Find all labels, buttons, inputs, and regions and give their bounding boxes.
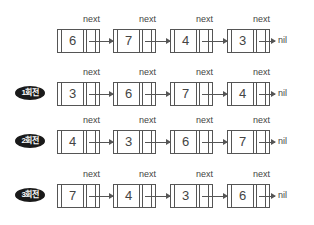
- list-row: 3회전next7next4next3next6nil: [0, 169, 314, 209]
- node-value: 3: [118, 131, 139, 153]
- list-row: 1회전next3next6next7next4nil: [0, 67, 314, 107]
- round-badge: 2회전: [15, 134, 45, 148]
- next-pointer-arrow: [89, 94, 113, 95]
- next-label: next: [253, 169, 270, 179]
- next-label: next: [253, 14, 270, 24]
- next-label: next: [83, 115, 100, 125]
- next-pointer-arrow: [202, 94, 227, 95]
- node-value: 4: [118, 185, 139, 207]
- next-pointer-arrow: [145, 196, 170, 197]
- node-value: 7: [62, 185, 83, 207]
- node-value: 4: [232, 83, 253, 105]
- node-value: 6: [175, 131, 196, 153]
- node-value: 7: [232, 131, 253, 153]
- next-pointer-arrow: [259, 196, 275, 197]
- node-value: 4: [62, 131, 83, 153]
- node-value: 7: [175, 83, 196, 105]
- next-label: next: [139, 169, 156, 179]
- next-label: next: [196, 14, 213, 24]
- next-label: next: [83, 169, 100, 179]
- nil-label: nil: [278, 88, 287, 98]
- next-pointer-arrow: [202, 196, 227, 197]
- next-label: next: [196, 115, 213, 125]
- node-value: 6: [118, 83, 139, 105]
- node-value: 4: [175, 30, 196, 52]
- next-label: next: [139, 67, 156, 77]
- next-label: next: [83, 67, 100, 77]
- next-pointer-arrow: [202, 41, 227, 42]
- next-label: next: [139, 115, 156, 125]
- next-label: next: [83, 14, 100, 24]
- nil-label: nil: [278, 35, 287, 45]
- next-pointer-arrow: [145, 94, 170, 95]
- next-pointer-arrow: [89, 41, 113, 42]
- node-value: 3: [232, 30, 253, 52]
- next-pointer-arrow: [89, 142, 113, 143]
- next-pointer-arrow: [202, 142, 227, 143]
- next-label: next: [253, 67, 270, 77]
- nil-label: nil: [278, 136, 287, 146]
- nil-label: nil: [278, 190, 287, 200]
- list-row: 2회전next4next3next6next7nil: [0, 115, 314, 155]
- next-pointer-arrow: [145, 41, 170, 42]
- next-label: next: [196, 169, 213, 179]
- next-pointer-arrow: [89, 196, 113, 197]
- node-value: 6: [62, 30, 83, 52]
- next-label: next: [139, 14, 156, 24]
- node-value: 3: [175, 185, 196, 207]
- next-label: next: [253, 115, 270, 125]
- next-pointer-arrow: [259, 142, 275, 143]
- next-pointer-arrow: [145, 142, 170, 143]
- next-pointer-arrow: [259, 41, 275, 42]
- list-row: next6next7next4next3nil: [0, 14, 314, 54]
- next-label: next: [196, 67, 213, 77]
- next-pointer-arrow: [259, 94, 275, 95]
- node-value: 6: [232, 185, 253, 207]
- node-value: 7: [118, 30, 139, 52]
- round-badge: 3회전: [15, 188, 45, 202]
- round-badge: 1회전: [15, 86, 45, 100]
- node-value: 3: [62, 83, 83, 105]
